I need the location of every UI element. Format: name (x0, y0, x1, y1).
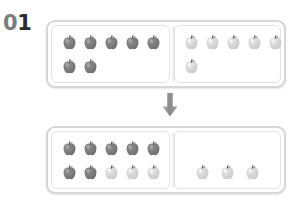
top-left-panel (51, 25, 170, 83)
apple-icon (103, 141, 120, 157)
apple-icon (183, 59, 200, 75)
apple-icon (183, 35, 200, 51)
apple-icon (61, 141, 78, 157)
problem-number-digit-1: 1 (17, 11, 31, 35)
apple-icon (225, 35, 242, 51)
top-left-row-2 (61, 59, 99, 75)
worksheet-canvas: 01 (0, 0, 293, 214)
apple-icon (145, 141, 162, 157)
apple-icon (82, 59, 99, 75)
apple-icon (103, 165, 120, 181)
top-right-row-1 (183, 35, 284, 51)
apple-icon (124, 141, 141, 157)
top-right-panel (174, 25, 281, 83)
top-frame (46, 20, 286, 88)
apple-icon (246, 35, 263, 51)
apple-icon (194, 165, 211, 181)
apple-icon (82, 165, 99, 181)
apple-icon (61, 59, 78, 75)
bottom-frame (46, 126, 286, 194)
problem-number: 01 (3, 13, 31, 34)
apple-icon (267, 35, 284, 51)
apple-icon (204, 35, 221, 51)
apple-icon (82, 35, 99, 51)
arrow-down-icon (160, 92, 180, 118)
apple-icon (244, 165, 261, 181)
apple-icon (124, 35, 141, 51)
apple-icon (145, 35, 162, 51)
problem-number-digit-0: 0 (3, 11, 17, 35)
top-right-row-2 (183, 59, 200, 75)
bottom-right-panel (174, 131, 281, 189)
apple-icon (61, 165, 78, 181)
bottom-right-row-2 (175, 165, 280, 181)
apple-icon (145, 165, 162, 181)
bottom-left-row-1 (61, 141, 162, 157)
bottom-left-panel (51, 131, 170, 189)
apple-icon (219, 165, 236, 181)
apple-icon (61, 35, 78, 51)
apple-icon (103, 35, 120, 51)
bottom-left-row-2 (61, 165, 162, 181)
top-left-row-1 (61, 35, 162, 51)
apple-icon (82, 141, 99, 157)
apple-icon (124, 165, 141, 181)
